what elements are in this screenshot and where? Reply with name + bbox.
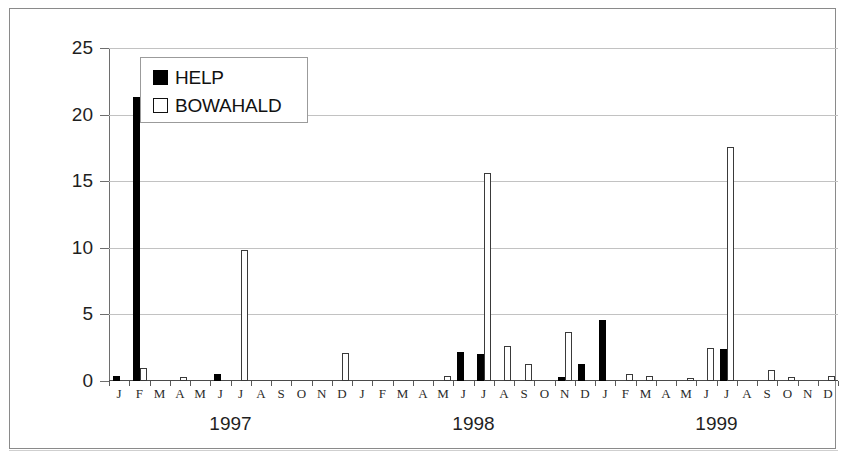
x-tick-label: O [540,387,549,401]
x-tick-mark [352,381,353,386]
x-tick-label: J [603,387,608,401]
x-axis: JFMAMJJASONDJFMAMJJASONDJFMAMJJASOND [109,381,838,411]
x-tick-mark [129,381,130,386]
x-tick-label: D [823,387,832,401]
x-tick-label: J [360,387,365,401]
bar-bowahald [626,374,633,381]
legend-item-bowahald: BOWAHALD [153,91,307,119]
y-tick-mark [100,381,109,382]
x-tick-mark [636,381,637,386]
bar-bowahald [484,173,491,381]
y-tick-mark [100,115,109,116]
x-tick-label: F [136,387,143,401]
x-tick-label: M [397,387,409,401]
x-tick-label: A [661,387,670,401]
x-tick-label: D [337,387,346,401]
x-tick-mark [109,381,110,386]
x-tick-mark [615,381,616,386]
x-tick-label: A [742,387,751,401]
x-tick-label: S [764,387,771,401]
x-tick-label: F [622,387,629,401]
x-tick-mark [798,381,799,386]
bar-help [578,364,585,381]
bar-bowahald [525,364,532,381]
x-tick-mark [291,381,292,386]
year-label: 1998 [452,413,494,435]
x-tick-label: N [560,387,569,401]
bar-bowahald [241,250,248,381]
x-tick-label: N [803,387,812,401]
x-tick-mark [231,381,232,386]
x-tick-mark [312,381,313,386]
x-tick-mark [818,381,819,386]
legend-swatch-help-icon [153,70,168,85]
y-tick-label: 0 [47,371,93,390]
x-tick-mark [251,381,252,386]
bar-help [133,97,140,381]
legend-label-bowahald: BOWAHALD [175,96,281,115]
x-tick-label: M [640,387,652,401]
x-tick-mark [717,381,718,386]
y-tick-label: 20 [47,105,93,124]
x-tick-mark [656,381,657,386]
bar-bowahald [140,368,147,381]
x-tick-label: M [680,387,692,401]
x-tick-mark [413,381,414,386]
x-tick-label: O [783,387,792,401]
x-tick-mark [433,381,434,386]
bar-bowahald [768,370,775,381]
x-tick-label: J [481,387,486,401]
x-tick-label: J [724,387,729,401]
x-tick-label: J [238,387,243,401]
bar-help [599,320,606,381]
x-tick-label: M [437,387,449,401]
x-tick-mark [555,381,556,386]
x-axis-year-labels: 199719981999 [109,413,838,441]
x-tick-label: A [175,387,184,401]
x-tick-mark [190,381,191,386]
x-tick-mark [514,381,515,386]
year-label: 1999 [695,413,737,435]
bar-help [214,374,221,381]
x-tick-label: M [194,387,206,401]
x-tick-label: J [704,387,709,401]
y-tick-label: 10 [47,238,93,257]
x-tick-mark [757,381,758,386]
bar-bowahald [565,332,572,381]
x-tick-label: J [218,387,223,401]
y-axis-title: Oberflächenabfluss [mm/mon] [0,88,1,341]
x-tick-mark [676,381,677,386]
x-tick-label: A [256,387,265,401]
x-tick-mark [150,381,151,386]
x-tick-label: N [317,387,326,401]
x-tick-mark [271,381,272,386]
x-tick-label: M [154,387,166,401]
x-tick-mark [393,381,394,386]
x-tick-mark [696,381,697,386]
legend-swatch-bowahald-icon [153,98,168,113]
x-tick-label: A [499,387,508,401]
x-tick-label: J [461,387,466,401]
x-tick-mark [474,381,475,386]
x-tick-mark [534,381,535,386]
bar-help [477,354,484,381]
figure-frame: Oberflächenabfluss [mm/mon] 0510152025 J… [9,8,836,449]
x-tick-mark [777,381,778,386]
y-tick-mark [100,181,109,182]
x-tick-mark [737,381,738,386]
bar-bowahald [707,348,714,381]
x-tick-mark [494,381,495,386]
bar-help [720,349,727,381]
x-tick-mark [595,381,596,386]
x-tick-label: A [418,387,427,401]
y-tick-label: 25 [47,38,93,57]
y-tick-label: 15 [47,171,93,190]
x-tick-label: O [297,387,306,401]
x-tick-label: J [117,387,122,401]
x-tick-mark [838,381,839,386]
x-tick-label: D [580,387,589,401]
bar-bowahald [727,147,734,381]
x-tick-label: F [379,387,386,401]
bar-bowahald [504,346,511,381]
legend-item-help: HELP [153,63,307,91]
